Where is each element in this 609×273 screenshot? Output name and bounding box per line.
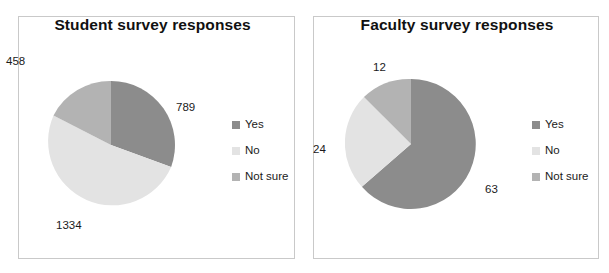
faculty-chart-title: Faculty survey responses <box>305 16 609 34</box>
student-legend-label-yes: Yes <box>245 119 264 131</box>
faculty-legend: Yes No Not sure <box>532 112 588 190</box>
student-label-not-sure: 458 <box>6 56 25 68</box>
faculty-legend-item-no[interactable]: No <box>532 138 588 164</box>
student-legend-item-yes[interactable]: Yes <box>232 112 288 138</box>
student-legend-label-no: No <box>245 145 260 157</box>
student-legend-item-not-sure[interactable]: Not sure <box>232 164 288 190</box>
student-legend-swatch-yes-icon <box>232 121 240 129</box>
faculty-legend-item-not-sure[interactable]: Not sure <box>532 164 588 190</box>
faculty-legend-label-no: No <box>545 145 560 157</box>
student-chart-panel: Student survey responses 458 789 1334 Ye… <box>0 0 305 273</box>
student-label-no: 1334 <box>56 220 82 232</box>
faculty-legend-item-yes[interactable]: Yes <box>532 112 588 138</box>
student-legend-label-not-sure: Not sure <box>245 171 288 183</box>
faculty-legend-swatch-no-icon <box>532 147 540 155</box>
faculty-chart-panel: Faculty survey responses 12 24 63 Yes N <box>305 0 609 273</box>
student-chart-title: Student survey responses <box>0 16 305 34</box>
student-legend-swatch-not-sure-icon <box>232 173 240 181</box>
faculty-legend-label-not-sure: Not sure <box>545 171 588 183</box>
faculty-legend-label-yes: Yes <box>545 119 564 131</box>
faculty-legend-swatch-not-sure-icon <box>532 173 540 181</box>
student-legend: Yes No Not sure <box>232 112 288 190</box>
student-legend-item-no[interactable]: No <box>232 138 288 164</box>
faculty-pie-svg <box>345 78 477 210</box>
student-pie-svg <box>46 80 176 210</box>
survey-pie-charts-figure: Student survey responses 458 789 1334 Ye… <box>0 0 609 273</box>
student-legend-swatch-no-icon <box>232 147 240 155</box>
student-pie: 458 789 1334 <box>46 80 176 210</box>
faculty-legend-swatch-yes-icon <box>532 121 540 129</box>
faculty-label-no: 24 <box>313 144 326 156</box>
student-label-yes: 789 <box>176 102 195 114</box>
faculty-label-yes: 63 <box>485 184 498 196</box>
faculty-pie: 12 24 63 <box>345 78 477 210</box>
faculty-label-not-sure: 12 <box>373 62 386 74</box>
